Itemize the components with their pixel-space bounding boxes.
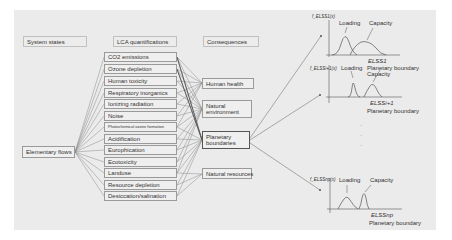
lca-item: Resource depletion [104, 180, 177, 190]
chart-1-y-label: f_ELSS1(x) [312, 15, 335, 20]
consequence-natural-resources: Natural resources [202, 168, 252, 179]
lca-item: Europhication [104, 145, 177, 155]
lca-item: Ionizing radiation [104, 99, 177, 109]
lca-item: Ecotoxicity [104, 157, 177, 167]
elementary-flows-box: Elementary flows [22, 146, 75, 158]
chart-2-capacity-label: Capacity [367, 71, 390, 77]
ellipsis-dot: · [360, 142, 362, 148]
lca-item: CO2 emissions [104, 52, 177, 62]
lca-item: Respiratory inorganics [104, 88, 177, 98]
chart-3-y-label: f_ELSSnp(x) [310, 178, 336, 183]
header-consequences: Consequences [203, 36, 259, 47]
ellipsis-dot: · [360, 132, 362, 138]
chart-1-loading-label: Loading [339, 20, 360, 26]
chart-3-x-label: ELSSnp [371, 212, 393, 218]
consequence-planetary-boundaries: Planetary boundaries [202, 131, 250, 149]
chart-2-y-label: f_ELSSi+1(x) [310, 67, 337, 72]
chart-1-capacity-label: Capacity [369, 20, 392, 26]
consequence-human-health: Human health [202, 78, 254, 89]
lca-item: Photochemical ozone formation [104, 122, 177, 132]
lca-item: Noise [104, 111, 177, 121]
chart-2-loading-label: Loading [341, 65, 362, 71]
chart-3-loading-label: Loading [339, 177, 360, 183]
lca-item: Desiccation/salination [104, 191, 177, 201]
chart-3-boundary-label: Planetary boundary [369, 220, 421, 226]
lca-item: Ozone depletion [104, 64, 177, 74]
chart-2-boundary-label: Planetary boundary [367, 108, 419, 114]
lca-item: Acidification [104, 134, 177, 144]
chart-2-x-label: ELSSi+1 [370, 100, 394, 106]
lca-item: Landuse [104, 168, 177, 178]
header-lca-quantifications: LCA quantifications [113, 36, 177, 47]
chart-3-capacity-label: Capacity [370, 177, 393, 183]
consequence-natural-environment: Natural environment [202, 100, 252, 118]
ellipsis-dot: · [360, 122, 362, 128]
header-system-states: System states [23, 36, 87, 47]
chart-1-x-label: ELSS1 [368, 58, 387, 64]
lca-item: Human toxicity [104, 76, 177, 86]
